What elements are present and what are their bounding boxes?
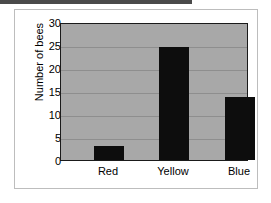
y-tick-label-20: 20 <box>39 64 61 75</box>
bar-red <box>94 146 124 160</box>
y-tick-label-25: 25 <box>39 41 61 52</box>
gridline-15 <box>61 93 247 94</box>
y-tick-label-10: 10 <box>39 110 61 121</box>
y-tick-label-15: 15 <box>39 87 61 98</box>
gridline-5 <box>61 139 247 140</box>
y-tick-label-30: 30 <box>39 18 61 29</box>
x-axis-tick-labels: Red Yellow Blue <box>60 165 248 181</box>
bar-yellow <box>159 47 189 160</box>
chart-figure-frame: Number of bees 30 25 20 15 10 5 0 Red Ye… <box>14 9 258 189</box>
gridline-20 <box>61 70 247 71</box>
x-label-blue: Blue <box>209 165 269 178</box>
y-tick-label-5: 5 <box>39 133 61 144</box>
x-label-yellow: Yellow <box>143 165 203 178</box>
y-tick-label-0: 0 <box>39 156 61 167</box>
x-label-red: Red <box>78 165 138 178</box>
gridline-25 <box>61 47 247 48</box>
scan-artifact-strip <box>0 0 192 4</box>
y-axis-tick-labels: 30 25 20 15 10 5 0 <box>39 23 61 161</box>
bar-blue <box>225 97 255 160</box>
gridline-10 <box>61 116 247 117</box>
plot-area <box>60 23 248 161</box>
